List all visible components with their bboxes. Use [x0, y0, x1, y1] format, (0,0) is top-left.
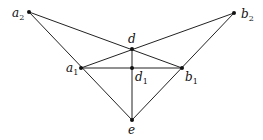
node-b2 [232, 11, 236, 15]
node-d [130, 47, 134, 51]
label-d: d [128, 32, 136, 46]
label-b1: b1 [185, 70, 198, 86]
graph-diagram: a2b2da1d1b1e [0, 0, 263, 140]
edges [29, 12, 234, 120]
label-d1: d1 [135, 70, 148, 86]
label-e: e [128, 123, 135, 137]
node-e [130, 118, 134, 122]
node-a2 [27, 10, 31, 14]
label-b2: b2 [241, 7, 254, 23]
edge-a2-e [29, 12, 132, 120]
labels: a2b2da1d1b1e [12, 6, 254, 137]
node-a1 [79, 66, 83, 70]
edge-b2-a1 [81, 13, 234, 68]
node-b1 [180, 66, 184, 70]
node-d1 [130, 66, 134, 70]
label-a2: a2 [12, 6, 24, 22]
label-a1: a1 [66, 61, 78, 77]
